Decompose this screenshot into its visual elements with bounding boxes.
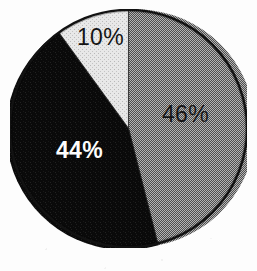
pie-chart-plot-area xyxy=(10,9,247,248)
pie-slice-label-44: 44% xyxy=(56,139,103,162)
pie-slice-label-10: 10% xyxy=(77,26,124,49)
pie-slice-label-46: 46% xyxy=(162,103,209,126)
pie-chart-svg xyxy=(10,9,247,248)
pie-chart-figure: 46% 44% 10% xyxy=(0,0,257,271)
